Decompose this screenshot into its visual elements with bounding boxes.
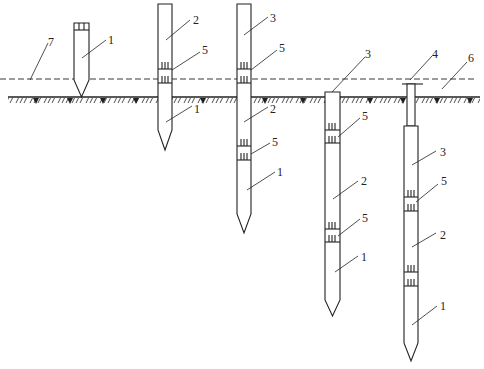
callout-label: 1 <box>194 102 200 116</box>
callout-label: 1 <box>108 33 114 47</box>
callout-label: 5 <box>362 211 368 225</box>
callout-label: 1 <box>277 165 283 179</box>
callout-label: 4 <box>432 47 438 61</box>
callout-leader <box>30 43 48 80</box>
callout-label: 1 <box>361 250 367 264</box>
callout-leader <box>338 118 360 137</box>
callout-label: 6 <box>468 51 474 65</box>
stage-4-pile <box>325 92 340 316</box>
callout-leader <box>410 56 432 80</box>
stage-1-pile <box>74 23 89 97</box>
callout-label: 7 <box>48 35 54 49</box>
callout-label: 2 <box>270 102 276 116</box>
callout-leader <box>338 219 360 236</box>
callout-label: 3 <box>440 145 446 159</box>
pile-diagram: 1 7 2 5 1 3 5 2 5 1 <box>0 0 484 369</box>
stage-2-pile <box>158 4 172 150</box>
callout-leader <box>172 52 200 70</box>
callout-label: 5 <box>272 135 278 149</box>
callout-label: 2 <box>440 228 446 242</box>
callout-label: 3 <box>365 47 371 61</box>
callout-label: 1 <box>440 299 446 313</box>
callout-label: 5 <box>441 174 447 188</box>
callout-leader <box>332 57 365 92</box>
callout-label: 3 <box>270 11 276 25</box>
callout-leader <box>251 50 277 70</box>
callout-label: 5 <box>202 43 208 57</box>
callout-leader <box>251 143 270 154</box>
stage-5-pile <box>404 126 418 361</box>
callout-label: 2 <box>361 174 367 188</box>
callout-leader <box>416 184 438 202</box>
callout-leader <box>442 62 467 89</box>
callout-label: 2 <box>193 13 199 27</box>
callout-label: 5 <box>362 109 368 123</box>
callout-label: 5 <box>279 41 285 55</box>
